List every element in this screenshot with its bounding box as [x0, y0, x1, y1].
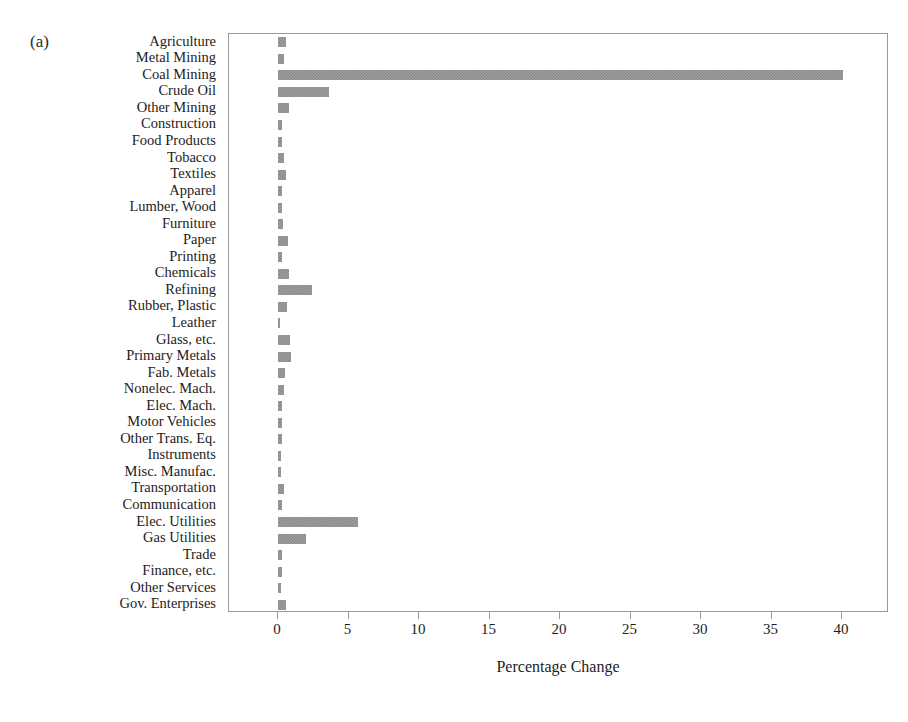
x-axis-tick-label: 5 [344, 621, 352, 637]
bar [278, 401, 282, 411]
x-axis-tick [418, 612, 419, 619]
bar [278, 484, 284, 494]
category-label: Primary Metals [60, 348, 216, 362]
plot-area [228, 33, 888, 612]
x-axis-tick-label: 35 [763, 621, 778, 637]
bar-row [229, 365, 887, 382]
bar [278, 203, 282, 213]
bar [278, 318, 280, 328]
bar-row [229, 530, 887, 547]
category-label: Metal Mining [60, 50, 216, 64]
x-axis-tick-label: 25 [622, 621, 637, 637]
bar-row [229, 249, 887, 266]
bar-row [229, 133, 887, 150]
category-label: Textiles [60, 166, 216, 180]
bar-row [229, 381, 887, 398]
bar [278, 186, 282, 196]
bar [278, 70, 843, 80]
bar [278, 368, 285, 378]
bar [278, 269, 289, 279]
category-label: Crude Oil [60, 83, 216, 97]
bar [278, 137, 282, 147]
category-label: Apparel [60, 183, 216, 197]
category-label: Other Mining [60, 100, 216, 114]
category-label: Glass, etc. [60, 332, 216, 346]
category-label: Food Products [60, 133, 216, 147]
bar [278, 583, 281, 593]
x-axis-tick [489, 612, 490, 619]
bar [278, 54, 284, 64]
category-label: Refining [60, 282, 216, 296]
x-axis-tick-label: 10 [411, 621, 426, 637]
bar-row [229, 51, 887, 68]
category-label: Misc. Manufac. [60, 464, 216, 478]
bar-row [229, 448, 887, 465]
bar [278, 37, 286, 47]
bar-row [229, 398, 887, 415]
category-label: Finance, etc. [60, 563, 216, 577]
bar [278, 451, 281, 461]
bar-row [229, 596, 887, 613]
category-label: Tobacco [60, 150, 216, 164]
bar [278, 517, 358, 527]
bar [278, 550, 282, 560]
bar-row [229, 547, 887, 564]
x-axis-tick-label: 0 [273, 621, 281, 637]
bar [278, 87, 329, 97]
bar-row [229, 100, 887, 117]
category-label: Furniture [60, 216, 216, 230]
bar [278, 467, 281, 477]
bar [278, 534, 306, 544]
category-label: Instruments [60, 447, 216, 461]
bar [278, 302, 287, 312]
bar [278, 335, 290, 345]
category-label: Elec. Mach. [60, 398, 216, 412]
bar [278, 252, 282, 262]
category-label: Leather [60, 315, 216, 329]
category-label: Lumber, Wood [60, 199, 216, 213]
bar-row [229, 332, 887, 349]
bar-row [229, 117, 887, 134]
category-label: Trade [60, 547, 216, 561]
bar-row [229, 150, 887, 167]
category-label: Transportation [60, 480, 216, 494]
category-label: Rubber, Plastic [60, 298, 216, 312]
category-label: Gov. Enterprises [60, 596, 216, 610]
category-label: Other Trans. Eq. [60, 431, 216, 445]
bar [278, 103, 289, 113]
bar-row [229, 431, 887, 448]
bar-row [229, 216, 887, 233]
category-label: Printing [60, 249, 216, 263]
bar-row [229, 497, 887, 514]
category-label: Other Services [60, 580, 216, 594]
category-label: Construction [60, 116, 216, 130]
bar-row [229, 183, 887, 200]
category-label: Motor Vehicles [60, 414, 216, 428]
x-axis-tick [630, 612, 631, 619]
category-label: Elec. Utilities [60, 514, 216, 528]
x-axis-tick-label: 30 [693, 621, 708, 637]
bar-row [229, 84, 887, 101]
x-axis-tick [841, 612, 842, 619]
bars-container [229, 34, 887, 611]
category-axis-labels: AgricultureMetal MiningCoal MiningCrude … [60, 33, 216, 612]
bar-row [229, 67, 887, 84]
bar-row [229, 199, 887, 216]
x-axis-tick-label: 20 [552, 621, 567, 637]
bar-row [229, 481, 887, 498]
category-label: Communication [60, 497, 216, 511]
x-axis-tick [559, 612, 560, 619]
bar-row [229, 34, 887, 51]
x-axis: 0510152025303540 [228, 612, 888, 652]
bar [278, 418, 282, 428]
bar-row [229, 233, 887, 250]
bar [278, 567, 282, 577]
bar [278, 219, 283, 229]
bar-row [229, 580, 887, 597]
bar-row [229, 282, 887, 299]
bar-row [229, 315, 887, 332]
x-axis-tick [700, 612, 701, 619]
x-axis-tick-label: 40 [834, 621, 849, 637]
category-label: Gas Utilities [60, 530, 216, 544]
bar [278, 170, 286, 180]
